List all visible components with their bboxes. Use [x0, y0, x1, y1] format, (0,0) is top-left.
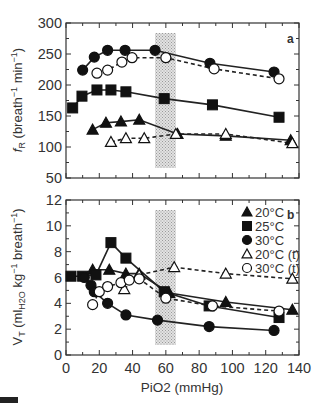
x-tick-label: 40	[125, 360, 141, 376]
x-tick-label: 140	[287, 360, 311, 376]
circle-marker	[204, 322, 214, 332]
y-tick-label: 10	[46, 218, 62, 234]
y-tick-label: 300	[38, 15, 62, 31]
triangle-marker	[242, 207, 252, 216]
y-tick-label: 200	[38, 77, 62, 93]
panel-label-b: b	[287, 208, 294, 222]
legend-item: 20°C	[255, 205, 284, 220]
triangle-marker	[220, 268, 231, 278]
circle-marker	[117, 57, 127, 67]
y-tick-label: 6	[54, 270, 62, 286]
x-axis-label: PiO2 (mmHg)	[141, 380, 224, 395]
panel-label-a: a	[287, 32, 294, 46]
circle-marker	[274, 306, 284, 316]
square-marker	[274, 112, 284, 122]
circle-marker	[134, 274, 144, 284]
circle-marker	[103, 282, 113, 292]
circle-marker	[274, 74, 284, 84]
circle-marker	[78, 65, 88, 75]
circle-marker	[124, 275, 134, 285]
square-marker	[106, 238, 116, 248]
circle-marker	[209, 64, 219, 74]
square-marker	[106, 85, 116, 95]
figure: 50100150200250300 024681012 ab20°C25°C30…	[0, 0, 326, 403]
circle-marker	[103, 65, 113, 75]
legend-item: 25°C	[255, 219, 284, 234]
circle-marker	[269, 325, 279, 335]
triangle-marker	[87, 124, 98, 134]
x-tick-label: 0	[62, 360, 70, 376]
circle-marker	[127, 53, 137, 63]
y-axis-label-b: VT (mlH2O kg−1 breath−1)	[9, 208, 27, 345]
y-tick-label: 12	[46, 192, 62, 208]
circle-marker	[89, 52, 99, 62]
x-tick-label: 100	[220, 360, 244, 376]
y-tick-label: 100	[38, 139, 62, 155]
y-tick-label: 250	[38, 46, 62, 62]
square-marker	[243, 222, 252, 231]
y-tick-label: 4	[54, 295, 62, 311]
circle-marker	[88, 300, 98, 310]
y-tick-label: 0	[54, 347, 62, 363]
square-marker	[66, 271, 76, 281]
x-tick-label: 80	[191, 360, 207, 376]
y-tick-label: 2	[54, 321, 62, 337]
panel-a-fR-chart: 50100150200250300	[38, 15, 299, 186]
circle-marker	[121, 310, 131, 320]
circle-marker	[153, 315, 163, 325]
square-marker	[91, 270, 101, 280]
x-tick-label: 120	[254, 360, 278, 376]
legend-item: 20°C (t)	[255, 247, 300, 262]
y-tick-label: 150	[38, 108, 62, 124]
square-marker	[121, 87, 131, 97]
square-marker	[121, 253, 131, 263]
square-marker	[159, 94, 169, 104]
circle-marker	[103, 298, 113, 308]
triangle-marker	[220, 128, 231, 138]
square-marker	[68, 103, 78, 113]
circle-marker	[92, 68, 102, 78]
x-tick-label: 20	[91, 360, 107, 376]
x-tick-label: 60	[158, 360, 174, 376]
y-axis-label-a: fR (breath−1 min−1)	[9, 48, 27, 152]
circle-marker	[243, 264, 252, 273]
square-marker	[77, 91, 87, 101]
circle-marker	[161, 293, 171, 303]
y-tick-label: 50	[46, 170, 62, 186]
circle-marker	[103, 45, 113, 55]
circle-marker	[161, 53, 171, 63]
legend-item: 30°C (t)	[255, 261, 300, 276]
triangle-marker	[120, 133, 131, 143]
y-tick-label: 8	[54, 244, 62, 260]
triangle-marker	[242, 249, 252, 258]
legend-item: 30°C	[255, 233, 284, 248]
triangle-marker	[134, 114, 145, 124]
scale-bar	[0, 397, 18, 403]
circle-marker	[243, 236, 252, 245]
circle-marker	[150, 45, 160, 55]
square-marker	[92, 85, 102, 95]
circle-marker	[207, 301, 217, 311]
square-marker	[207, 100, 217, 110]
